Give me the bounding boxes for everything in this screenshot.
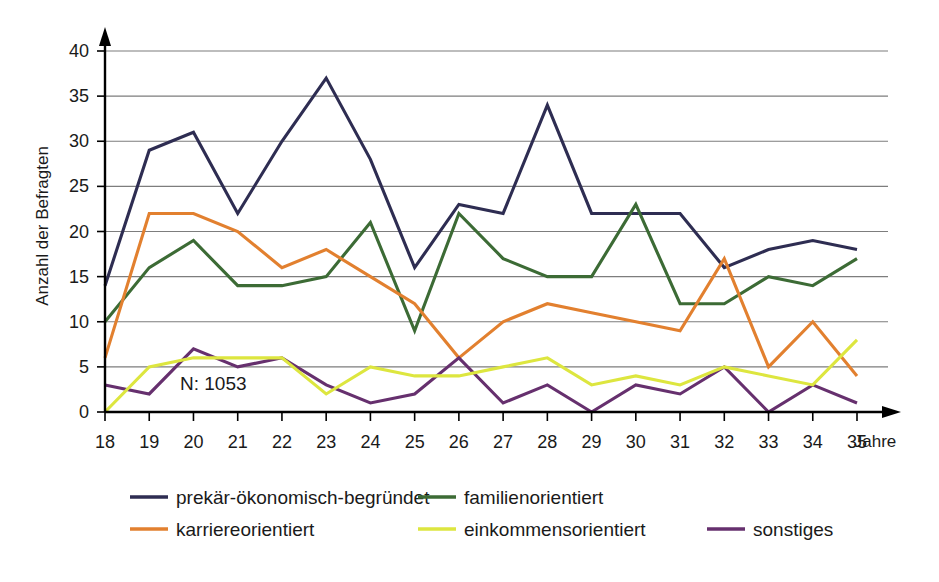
legend-label: karriereorientiert <box>176 519 315 540</box>
y-tick-label: 25 <box>69 176 89 196</box>
chart-legend: prekär-ökonomisch-begründetfamilienorien… <box>130 487 833 540</box>
legend-label: prekär-ökonomisch-begründet <box>176 487 430 508</box>
series-line <box>105 78 857 286</box>
x-tick-label: 24 <box>360 432 380 452</box>
y-axis-arrowhead <box>99 27 111 46</box>
y-tick-label: 10 <box>69 312 89 332</box>
legend-label: sonstiges <box>753 519 833 540</box>
x-tick-label: 32 <box>714 432 734 452</box>
x-tick-label: 22 <box>272 432 292 452</box>
x-tick-label: 25 <box>405 432 425 452</box>
x-tick-label: 28 <box>537 432 557 452</box>
x-tick-label: 30 <box>626 432 646 452</box>
x-tick-label: 26 <box>449 432 469 452</box>
x-tick-label: 29 <box>582 432 602 452</box>
x-tick-label: 18 <box>95 432 115 452</box>
y-tick-label: 5 <box>79 357 89 377</box>
x-axis-arrowhead <box>882 406 901 418</box>
x-axis-title: Jahre <box>854 432 897 451</box>
data-series-group <box>105 78 857 412</box>
chart-container: 0510152025303540 18192021222324252627282… <box>0 0 939 582</box>
x-tick-label: 21 <box>228 432 248 452</box>
gridlines <box>105 51 888 367</box>
y-tick-label: 40 <box>69 41 89 61</box>
y-tick-label: 35 <box>69 86 89 106</box>
y-axis-title: Anzahl der Befragten <box>33 146 52 306</box>
x-axis-tick-marks <box>105 412 857 421</box>
x-tick-label: 19 <box>139 432 159 452</box>
y-tick-label: 30 <box>69 131 89 151</box>
x-tick-label: 34 <box>803 432 823 452</box>
x-tick-label: 20 <box>183 432 203 452</box>
x-tick-label: 27 <box>493 432 513 452</box>
x-tick-label: 33 <box>759 432 779 452</box>
line-chart: 0510152025303540 18192021222324252627282… <box>0 0 939 582</box>
legend-label: familienorientiert <box>464 487 604 508</box>
legend-label: einkommensorientiert <box>464 519 646 540</box>
y-tick-label: 0 <box>79 402 89 422</box>
sample-size-annotation: N: 1053 <box>180 373 247 394</box>
y-axis-tick-labels: 0510152025303540 <box>69 41 89 422</box>
x-tick-label: 23 <box>316 432 336 452</box>
x-axis-tick-labels: 181920212223242526272829303132333435 <box>95 432 867 452</box>
x-tick-label: 31 <box>670 432 690 452</box>
y-tick-label: 20 <box>69 222 89 242</box>
y-tick-label: 15 <box>69 267 89 287</box>
